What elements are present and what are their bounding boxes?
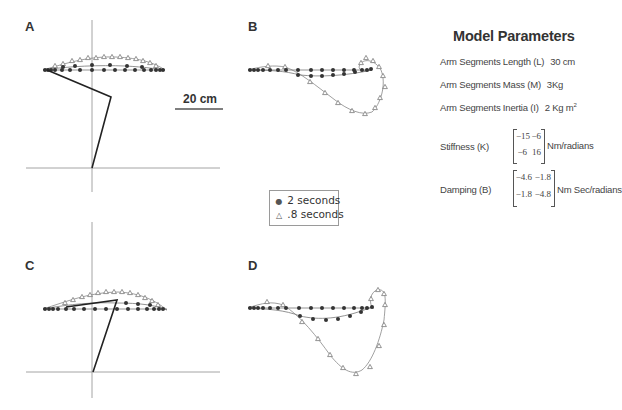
panel-label-d: D [248, 258, 257, 273]
param-mass: Arm Segments Mass (M)3Kg [440, 79, 563, 90]
damping-b12: −1.8 [533, 172, 551, 182]
stiffness-k11: −15 [516, 131, 529, 141]
legend-label-08s: .8 seconds [287, 208, 343, 220]
matrix-bracket-right [551, 170, 555, 207]
panel-label-a: A [25, 19, 34, 34]
matrix-bracket-right [541, 129, 545, 164]
stiffness-unit: Nm/radians [547, 140, 594, 151]
param-inertia-value: 2 Kg m [545, 102, 574, 113]
open-triangle-icon: △ [274, 211, 284, 220]
panel-label-b: B [248, 19, 257, 34]
damping-b21: −1.8 [515, 189, 532, 199]
panel-b-plot [248, 55, 387, 115]
legend-item-08s: △ .8 seconds [274, 208, 344, 220]
stiffness-k22: 16 [530, 147, 541, 157]
panel-c-plot [26, 222, 220, 398]
param-length-value: 30 cm [550, 56, 575, 67]
damping-matrix: −4.6 −1.8 −1.8 −4.8 [513, 170, 555, 205]
damping-unit: Nm Sec/radians [557, 184, 622, 195]
param-stiffness-label: Stiffness (K) [440, 141, 489, 152]
legend-label-2s: 2 seconds [287, 194, 340, 206]
param-length-label: Arm Segments Length (L) [440, 56, 544, 67]
param-inertia-superscript: 2 [574, 102, 577, 108]
damping-b11: −4.6 [515, 172, 532, 182]
panel-b-markers-2s [248, 67, 373, 78]
scale-bar-label: 20 cm [183, 92, 217, 106]
filled-circle-icon: ● [274, 197, 284, 206]
param-mass-label: Arm Segments Mass (M) [440, 79, 541, 90]
panel-a-arm [47, 70, 111, 168]
panel-d-plot [248, 287, 387, 375]
param-damping-label: Damping (B) [440, 184, 491, 195]
param-length: Arm Segments Length (L)30 cm [440, 56, 575, 67]
legend: ● 2 seconds △ .8 seconds [269, 190, 339, 226]
stiffness-k21: −6 [516, 147, 527, 157]
panel-a-plot [26, 20, 220, 192]
param-mass-value: 3Kg [547, 79, 563, 90]
param-inertia-label: Arm Segments Inertia (I) [440, 102, 539, 113]
damping-b22: −4.8 [533, 189, 551, 199]
panel-label-c: C [25, 258, 34, 273]
model-parameters-title: Model Parameters [453, 28, 575, 44]
stiffness-k12: −6 [530, 131, 541, 141]
legend-item-2s: ● 2 seconds [274, 194, 340, 206]
panel-b-markers-08s [266, 55, 388, 115]
param-inertia: Arm Segments Inertia (I)2 Kg m2 [440, 102, 577, 113]
model-parameters-panel: Model Parameters Arm Segments Length (L)… [420, 0, 608, 220]
panel-d-markers-2s [248, 305, 374, 322]
stiffness-matrix: −15 −6 −6 16 [513, 129, 545, 162]
